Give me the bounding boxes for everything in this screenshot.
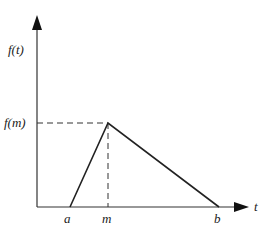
x-tick-b: b [214,212,221,225]
y-axis-arrow-icon [32,15,42,30]
peak-value-label: f(m) [4,116,26,129]
x-tick-a: a [64,212,71,225]
x-tick-m: m [102,212,111,225]
x-axis-label: t [254,200,258,213]
y-axis-label: f(t) [8,43,24,56]
diagram-canvas [0,0,270,232]
triangle-density-curve [70,123,219,207]
x-axis-arrow-icon [234,202,249,212]
